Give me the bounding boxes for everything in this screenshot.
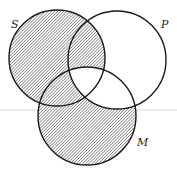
label-m: M: [136, 136, 149, 149]
label-s: S: [11, 18, 19, 31]
venn-diagram: S P M: [0, 0, 177, 173]
label-p: P: [160, 18, 169, 31]
